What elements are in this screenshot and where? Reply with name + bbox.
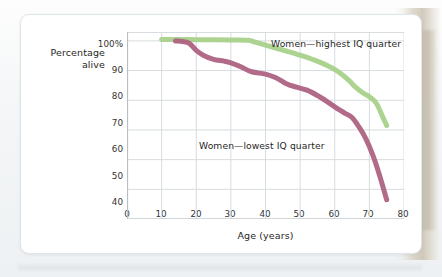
y-tick-100: 100% — [85, 39, 123, 50]
y-tick-90: 90 — [85, 65, 123, 76]
y-tick-80: 80 — [85, 91, 123, 102]
plot-area — [127, 32, 404, 219]
y-tick-label: 80 — [85, 91, 123, 101]
y-tick-label: 50 — [85, 171, 123, 181]
scanned-page: Percentage alive Age (years) 100% 90 80 … — [0, 0, 442, 277]
y-tick-label: 100% — [85, 39, 123, 49]
y-tick-50: 50 — [85, 171, 123, 182]
y-tick-label: 70 — [85, 118, 123, 128]
page-bottom-smudge — [18, 263, 422, 272]
series-label-lowest-iq: Women—lowest IQ quarter — [199, 140, 325, 151]
y-tick-label: 60 — [85, 144, 123, 154]
figure-card: Percentage alive Age (years) 100% 90 80 … — [20, 14, 422, 254]
series-label-highest-iq: Women—highest IQ quarter — [271, 38, 401, 49]
x-axis-title: Age (years) — [127, 230, 404, 241]
series-line — [175, 41, 386, 200]
y-tick-label: 90 — [85, 65, 123, 75]
y-tick-70: 70 — [85, 118, 123, 129]
y-tick-label: 40 — [85, 197, 123, 207]
y-tick-40: 40 — [85, 197, 123, 208]
y-tick-60: 60 — [85, 144, 123, 155]
